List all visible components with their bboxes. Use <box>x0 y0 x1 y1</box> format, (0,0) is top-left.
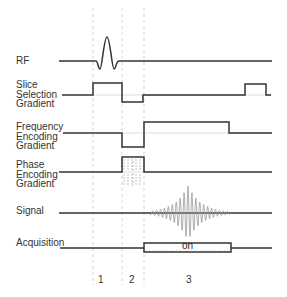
acquisition-on-label: on <box>182 240 193 251</box>
pulse-sequence-diagram: RF Slice Selection Gradient Frequency En… <box>0 0 287 297</box>
interval-2-label: 2 <box>129 274 135 285</box>
label-phase-encoding-gradient: Phase Encoding Gradient <box>16 160 58 189</box>
label-signal: Signal <box>16 206 44 216</box>
label-slice-selection-gradient: Slice Selection Gradient <box>16 80 57 109</box>
label-rf: RF <box>16 56 29 66</box>
phase-encoding-steps <box>123 157 143 186</box>
signal-echo <box>150 186 230 236</box>
interval-3-label: 3 <box>186 274 192 285</box>
phase-gradient-trace <box>59 157 272 172</box>
frequency-gradient-trace <box>63 122 272 147</box>
label-frequency-encoding-gradient: Frequency Encoding Gradient <box>16 122 63 151</box>
rf-trace <box>59 37 272 69</box>
interval-1-label: 1 <box>98 274 104 285</box>
label-acquisition: Acquisition <box>16 238 64 248</box>
